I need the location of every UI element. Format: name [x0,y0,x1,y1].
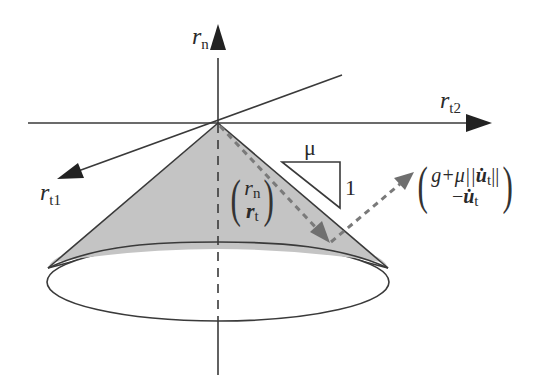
label-rt2: rt2 [440,88,461,112]
force-vector-label: ( rn rt ) [227,173,278,225]
axis-rt1-arrowhead [57,163,84,179]
label-rt1: rt1 [40,180,61,204]
projection-vector-label: ( g+μ||u̇t|| −u̇t ) [414,160,517,212]
label-rn: rn [192,24,209,48]
axis-rt2-arrowhead [466,114,492,132]
projection-vector-dashed [331,184,400,242]
projection-vector-arrowhead [394,172,414,190]
label-slope-one: 1 [345,177,356,199]
axis-rn-arrowhead [210,24,226,50]
label-slope-mu: μ [304,137,316,159]
